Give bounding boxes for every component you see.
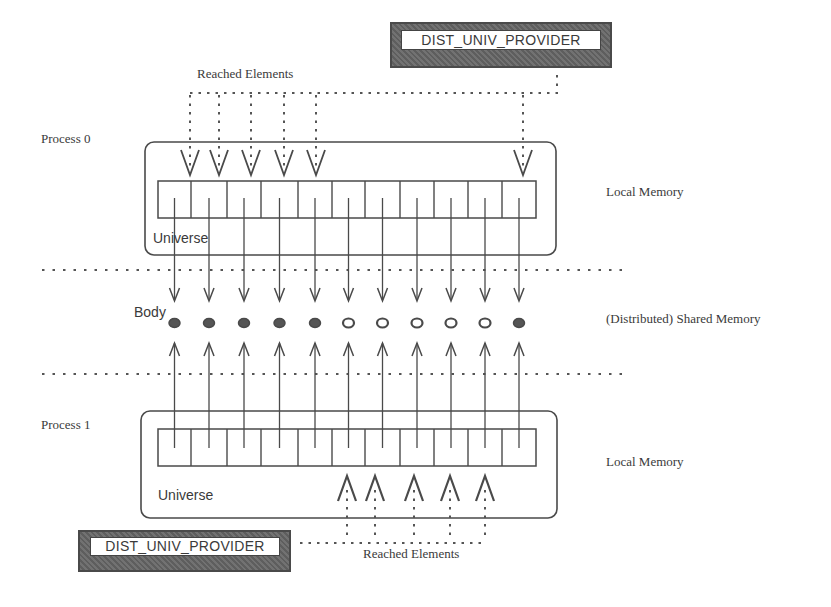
body-filled bbox=[239, 319, 250, 328]
body-hollow bbox=[377, 319, 388, 328]
cell-strip-outline bbox=[158, 429, 536, 466]
body-hollow bbox=[343, 319, 354, 328]
process1-reached-elements-label: Reached Elements bbox=[363, 546, 459, 562]
reached-pointer-icon bbox=[242, 150, 260, 175]
distributed-memory-diagram bbox=[0, 0, 831, 607]
body-label: Body bbox=[134, 304, 166, 320]
reached-pointer-icon bbox=[181, 150, 199, 175]
body-filled bbox=[169, 319, 180, 328]
body-filled bbox=[204, 319, 215, 328]
reached-pointer-icon bbox=[441, 476, 459, 501]
reached-pointer-icon bbox=[476, 476, 494, 501]
process0-reached-pointers bbox=[181, 70, 557, 175]
body-filled bbox=[274, 319, 285, 328]
reached-pointer-icon bbox=[210, 150, 228, 175]
body-hollow bbox=[412, 319, 423, 328]
process0-universe-label: Universe bbox=[153, 230, 208, 246]
reached-pointer-icon bbox=[307, 150, 325, 175]
process1-reached-pointers bbox=[300, 476, 494, 543]
reached-pointer-icon bbox=[405, 476, 423, 501]
process1-to-body-arrows bbox=[170, 343, 525, 448]
process1-provider-label: DIST_UNIV_PROVIDER bbox=[90, 537, 280, 556]
reached-pointer-icon bbox=[366, 476, 384, 501]
cell-strip-outline bbox=[158, 181, 536, 218]
process0-reached-elements-label: Reached Elements bbox=[197, 66, 293, 82]
process1-universe-label: Universe bbox=[158, 487, 213, 503]
shared-memory-label: (Distributed) Shared Memory bbox=[606, 311, 761, 327]
process1-local-memory-label: Local Memory bbox=[606, 454, 684, 470]
process0-to-body-arrows bbox=[170, 198, 525, 301]
process0-provider-label: DIST_UNIV_PROVIDER bbox=[401, 30, 601, 50]
reached-pointer-icon bbox=[514, 150, 532, 175]
process1-provider-box: DIST_UNIV_PROVIDER bbox=[78, 530, 291, 572]
process1-label: Process 1 bbox=[41, 417, 90, 433]
process1-cell-strip bbox=[158, 429, 536, 466]
shared-body-objects bbox=[169, 319, 525, 328]
process0-local-memory-label: Local Memory bbox=[606, 184, 684, 200]
body-hollow bbox=[446, 319, 457, 328]
body-filled bbox=[514, 319, 525, 328]
body-filled bbox=[310, 319, 321, 328]
process0-label: Process 0 bbox=[41, 131, 90, 147]
reached-pointer-icon bbox=[275, 150, 293, 175]
reached-pointer-icon bbox=[338, 476, 356, 501]
body-hollow bbox=[480, 319, 491, 328]
process0-cell-strip bbox=[158, 181, 536, 218]
process0-provider-box: DIST_UNIV_PROVIDER bbox=[390, 22, 612, 68]
